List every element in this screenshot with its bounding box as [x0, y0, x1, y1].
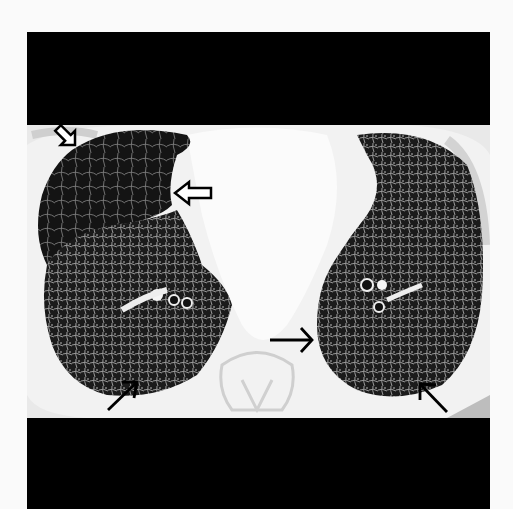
arrow-icon	[420, 384, 447, 412]
open-arrow-icon	[51, 121, 82, 152]
annotation-layer	[0, 0, 513, 509]
arrow-icon	[108, 382, 137, 410]
arrow-icon	[270, 328, 312, 352]
open-arrow-icon	[175, 182, 211, 204]
